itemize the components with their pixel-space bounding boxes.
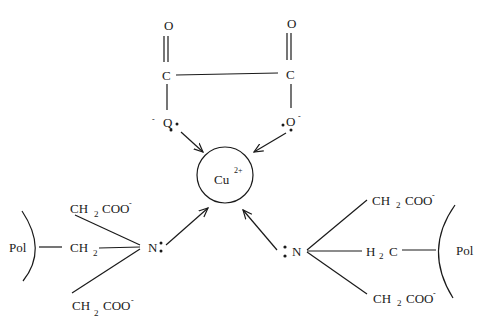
lone-pair-dot	[283, 254, 286, 257]
c-c-bond	[176, 73, 278, 75]
left-oxygen-charge: -	[152, 115, 155, 124]
left-iminodiacetate-ligand: Pol CH 2 COO - CH 2 CH 2 COO - N	[9, 199, 163, 318]
coordination-arrow-right-oxygen	[254, 133, 286, 152]
copper-ion: Cu 2+	[197, 147, 253, 203]
right-polymer-boundary	[438, 205, 455, 298]
copper-charge: 2+	[234, 166, 243, 175]
linker-h: H	[366, 244, 375, 259]
lower-arm-ch: CH	[72, 298, 90, 313]
left-polymer-label: Pol	[9, 240, 27, 255]
lone-pair-dot	[170, 129, 173, 132]
lone-pair-dot	[282, 124, 285, 127]
lone-pair-dot	[160, 250, 163, 253]
upper-arm-coo: COO	[102, 201, 129, 216]
linker-ch: CH	[70, 240, 88, 255]
upper-arm-ch: CH	[70, 201, 88, 216]
oxalate-group: O C O C - Q O -	[152, 16, 301, 132]
right-carbon: C	[286, 67, 295, 82]
n-lower-arm-bond	[72, 249, 140, 293]
right-polymer-label: Pol	[456, 243, 474, 258]
left-oxygen: Q	[163, 115, 173, 130]
lone-pair-dot	[176, 123, 179, 126]
n-upper-arm-bond	[307, 200, 367, 250]
chemical-diagram: O C O C - Q O - Cu 2+ Pol CH 2 COO	[0, 0, 480, 323]
right-nitrogen: N	[292, 244, 302, 259]
left-nitrogen: N	[148, 240, 158, 255]
upper-arm-coo: COO	[405, 193, 432, 208]
linker-sub: 2	[93, 248, 98, 258]
linker-c: C	[389, 244, 398, 259]
coordination-arrow-left-oxygen	[181, 132, 203, 152]
copper-symbol: Cu	[214, 172, 230, 187]
lone-pair-dot	[283, 245, 286, 248]
n-linker-bond	[99, 247, 140, 248]
upper-arm-charge: -	[432, 191, 435, 200]
lone-pair-dot	[160, 242, 163, 245]
right-oxygen-charge: -	[298, 112, 301, 121]
lower-arm-sub: 2	[397, 298, 402, 308]
left-carbon: C	[162, 68, 171, 83]
right-carbonyl-oxygen: O	[287, 16, 296, 31]
upper-arm-ch: CH	[372, 193, 390, 208]
linker-sub: 2	[379, 251, 384, 261]
coordination-arrow-right-nitrogen	[243, 210, 277, 250]
upper-arm-sub: 2	[94, 209, 99, 219]
right-oxygen: O	[286, 114, 295, 129]
upper-arm-sub: 2	[396, 200, 401, 210]
upper-arm-charge: -	[129, 199, 132, 208]
lower-arm-ch: CH	[373, 291, 391, 306]
lower-arm-sub: 2	[94, 308, 99, 318]
lower-arm-charge: -	[433, 289, 436, 298]
lower-arm-charge: -	[131, 296, 134, 305]
right-iminodiacetate-ligand: N CH 2 COO - H 2 C CH 2 COO - Pol	[243, 191, 474, 308]
left-carbonyl-oxygen: O	[164, 18, 173, 33]
coordination-arrow-left-nitrogen	[166, 208, 208, 245]
n-lower-arm-bond	[307, 252, 367, 294]
lower-arm-coo: COO	[406, 291, 433, 306]
lower-arm-coo: COO	[103, 298, 130, 313]
